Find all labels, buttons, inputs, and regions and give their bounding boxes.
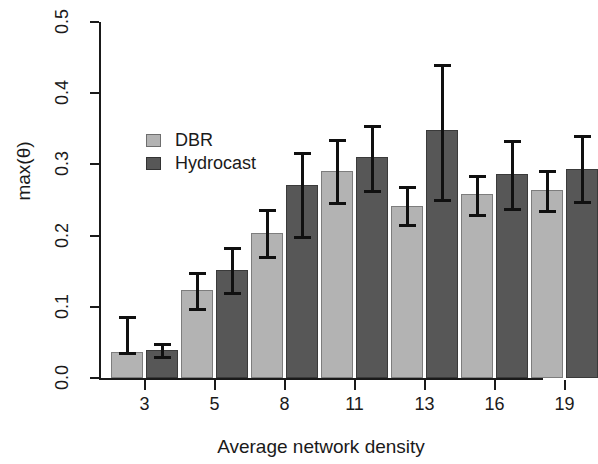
- error-bar-cap-lower: [574, 201, 591, 204]
- error-bar-stem: [511, 140, 514, 208]
- error-bar-stem: [231, 247, 234, 292]
- x-axis-tick-label: 8: [265, 394, 305, 415]
- y-axis-title: max(θ): [13, 111, 35, 231]
- error-bar-stem: [266, 209, 269, 255]
- y-axis-tick: [90, 235, 99, 237]
- x-axis-line: [99, 378, 543, 380]
- error-bar-cap-upper: [329, 139, 346, 142]
- x-axis-tick-label: 16: [475, 394, 515, 415]
- legend-swatch-icon: [146, 134, 161, 147]
- error-bar-cap-lower: [504, 208, 521, 211]
- y-axis-tick-label: 0.2: [52, 213, 73, 257]
- error-bar-cap-upper: [399, 186, 416, 189]
- legend-item: Hydrocast: [146, 153, 256, 174]
- y-axis-tick-label: 0.3: [52, 142, 73, 186]
- error-bar-stem: [546, 170, 549, 210]
- bar: [391, 206, 423, 378]
- x-axis-tick-label: 5: [195, 394, 235, 415]
- error-bar-cap-lower: [539, 210, 556, 213]
- error-bar-cap-upper: [539, 170, 556, 173]
- y-axis-tick-label: 0.5: [52, 0, 73, 44]
- error-bar-cap-upper: [294, 152, 311, 155]
- error-bar-cap-lower: [469, 214, 486, 217]
- x-axis-tick-label: 13: [405, 394, 445, 415]
- x-axis-tick: [424, 380, 426, 390]
- error-bar-cap-upper: [154, 343, 171, 346]
- bar: [111, 352, 143, 378]
- error-bar-cap-lower: [224, 292, 241, 295]
- y-axis-tick-label: 0.4: [52, 71, 73, 115]
- error-bar-stem: [406, 186, 409, 224]
- bar: [531, 190, 563, 378]
- error-bar-cap-upper: [259, 209, 276, 212]
- error-bar-cap-upper: [224, 247, 241, 250]
- y-axis-tick-label: 0.0: [52, 356, 73, 400]
- error-bar-cap-lower: [154, 356, 171, 359]
- error-bar-stem: [196, 272, 199, 308]
- x-axis-tick-label: 3: [125, 394, 165, 415]
- error-bar-stem: [301, 152, 304, 237]
- error-bar-cap-lower: [259, 256, 276, 259]
- legend: DBRHydrocast: [146, 130, 256, 176]
- error-bar-cap-lower: [329, 202, 346, 205]
- error-bar-cap-upper: [364, 125, 381, 128]
- error-bar-stem: [476, 175, 479, 213]
- y-axis-tick: [90, 163, 99, 165]
- x-axis-tick: [284, 380, 286, 390]
- error-bar-cap-lower: [434, 199, 451, 202]
- x-axis-tick-label: 11: [335, 394, 375, 415]
- error-bar-cap-upper: [119, 316, 136, 319]
- error-bar-cap-lower: [119, 352, 136, 355]
- error-bar-stem: [371, 125, 374, 191]
- bar: [461, 194, 493, 378]
- x-axis-tick-label: 19: [545, 394, 585, 415]
- y-axis-tick: [90, 377, 99, 379]
- error-bar-stem: [441, 64, 444, 199]
- error-bar-cap-upper: [469, 175, 486, 178]
- legend-item: DBR: [146, 130, 256, 151]
- error-bar-cap-upper: [504, 140, 521, 143]
- error-bar-cap-upper: [434, 64, 451, 67]
- x-axis-title: Average network density: [99, 436, 543, 458]
- y-axis-line: [99, 22, 101, 379]
- y-axis-tick: [90, 306, 99, 308]
- error-bar-cap-lower: [294, 236, 311, 239]
- x-axis-tick: [564, 380, 566, 390]
- error-bar-cap-upper: [189, 272, 206, 275]
- error-bar-cap-lower: [399, 224, 416, 227]
- error-bar-stem: [581, 135, 584, 201]
- error-bar-stem: [336, 139, 339, 202]
- y-axis-tick-label: 0.1: [52, 284, 73, 328]
- x-axis-tick: [354, 380, 356, 390]
- error-bar-cap-upper: [574, 135, 591, 138]
- y-axis-tick: [90, 21, 99, 23]
- y-axis-tick: [90, 92, 99, 94]
- x-axis-tick: [214, 380, 216, 390]
- legend-item-label: DBR: [175, 130, 213, 151]
- legend-item-label: Hydrocast: [175, 153, 256, 174]
- legend-swatch-icon: [146, 157, 161, 170]
- error-bar-cap-lower: [364, 190, 381, 193]
- error-bar-stem: [126, 316, 129, 352]
- x-axis-tick: [494, 380, 496, 390]
- error-bar-cap-lower: [189, 308, 206, 311]
- x-axis-tick: [144, 380, 146, 390]
